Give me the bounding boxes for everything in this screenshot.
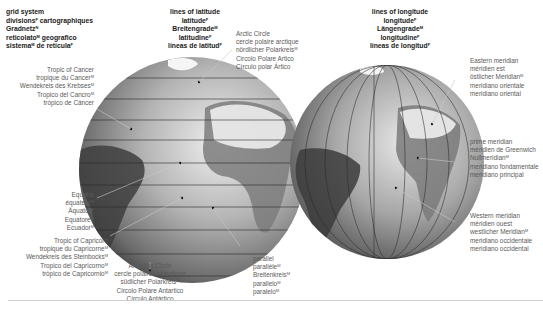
lines-of-longitude-heading: lines of longitude longitudeF Längengrad…	[345, 8, 455, 51]
latitude-en: lines of latitude	[140, 8, 250, 17]
title-de: GradnetzN	[6, 25, 93, 34]
latitude-de: BreitengradeM	[140, 25, 250, 34]
title-es: sistemaM de retículaF	[6, 42, 93, 51]
arctic-circle-label: Arctic Circle cercle polaire arctique nö…	[236, 30, 299, 71]
western-meridian-label: Western meridian méridien ouest westlich…	[470, 212, 532, 253]
eastern-meridian-label: Eastern meridian méridien est östlicher …	[470, 57, 524, 98]
longitude-it: longitudineF	[345, 34, 455, 43]
prime-meridian-label: prime meridian méridien de Greenwich Nul…	[470, 138, 539, 179]
latitude-it: latitudineF	[140, 34, 250, 43]
latitude-fr: latitudeF	[140, 17, 250, 26]
footer-divider	[8, 300, 543, 301]
longitude-fr: longitudeF	[345, 17, 455, 26]
grid-system-title: grid system divisionsF cartographiques G…	[6, 8, 93, 51]
longitude-de: LängengradeM	[345, 25, 455, 34]
longitude-en: lines of longitude	[345, 8, 455, 17]
title-en: grid system	[6, 8, 93, 17]
title-it: reticolatoM geografico	[6, 34, 93, 43]
tropic-of-cancer-label: Tropic of Cancer tropique du CancerM Wen…	[0, 66, 94, 107]
longitude-es: líneas de longitudF	[345, 42, 455, 51]
equator-label: Equator équateurM ÄquatorM EquatoreM Ecu…	[0, 191, 94, 232]
antarctic-circle-label: Antarctic Circle cercle polaire antarcti…	[100, 262, 200, 303]
parallel-label: parallel parallèleM BreitenkreisM parall…	[253, 255, 290, 296]
latitude-es: líneas de latitudF	[140, 42, 250, 51]
lines-of-latitude-heading: lines of latitude latitudeF Breitengrade…	[140, 8, 250, 51]
tropic-of-capricorn-label: Tropic of Capricorn tropique du Capricor…	[0, 237, 108, 278]
title-fr: divisionsF cartographiques	[6, 17, 93, 26]
